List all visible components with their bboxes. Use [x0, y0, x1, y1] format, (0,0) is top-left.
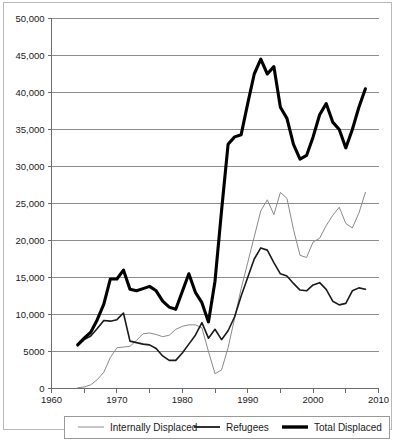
y-tick-label: 15,000 [15, 272, 44, 283]
x-tick-label: 1960 [41, 394, 62, 405]
line-chart: 0500010,00015,00020,00025,00030,00035,00… [0, 0, 395, 448]
y-tick-label: 50,000 [15, 13, 44, 24]
series-line-refugees [78, 248, 366, 360]
y-tick-label: 25,000 [15, 198, 44, 209]
x-axis-tick-labels: 196019701980199020002010 [41, 394, 389, 405]
y-tick-label: 35,000 [15, 124, 44, 135]
x-tick-label: 2000 [303, 394, 324, 405]
tickmarks-group [48, 19, 379, 393]
y-tick-label: 10,000 [15, 309, 44, 320]
x-tick-label: 1990 [237, 394, 258, 405]
y-tick-label: 45,000 [15, 50, 44, 61]
chart-legend: Internally DisplacedRefugeesTotal Displa… [64, 416, 389, 438]
y-tick-label: 40,000 [15, 87, 44, 98]
chart-figure: 0500010,00015,00020,00025,00030,00035,00… [0, 0, 395, 448]
legend-label: Refugees [226, 422, 269, 433]
y-tick-label: 20,000 [15, 235, 44, 246]
legend-label: Internally Displaced [110, 422, 197, 433]
gridlines-group [52, 19, 379, 352]
series-line-total-displaced [78, 59, 366, 345]
legend-label: Total Displaced [314, 422, 382, 433]
data-series-group [78, 59, 366, 388]
x-tick-label: 2010 [368, 394, 389, 405]
x-tick-label: 1970 [106, 394, 127, 405]
y-tick-label: 0 [39, 383, 44, 394]
x-tick-label: 1980 [172, 394, 193, 405]
y-tick-label: 5000 [23, 346, 44, 357]
y-tick-label: 30,000 [15, 161, 44, 172]
y-axis-tick-labels: 0500010,00015,00020,00025,00030,00035,00… [15, 13, 44, 394]
